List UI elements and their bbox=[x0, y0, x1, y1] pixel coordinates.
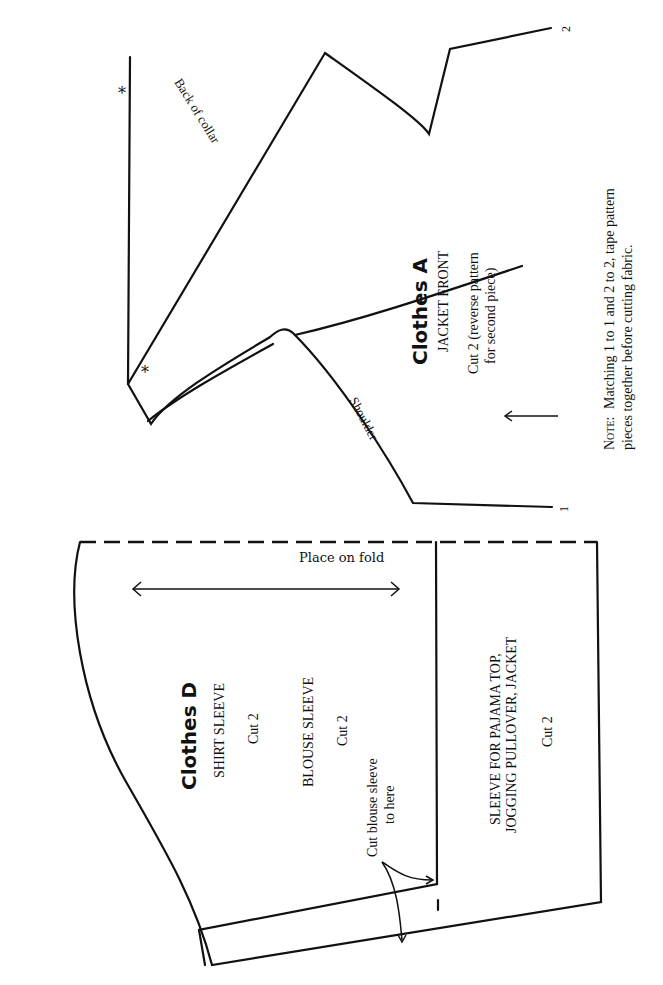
collar-inner-line bbox=[148, 344, 273, 421]
note-label: Note: bbox=[602, 417, 617, 450]
blouse-sleeve-line bbox=[199, 542, 437, 965]
cut-blouse-label-line2: to here bbox=[382, 786, 397, 824]
shirt-sleeve-cut: Cut 2 bbox=[246, 713, 261, 744]
shoulder-label: Shoulder bbox=[346, 394, 382, 443]
shirt-sleeve-label: SHIRT SLEEVE bbox=[212, 683, 227, 778]
sleeve-for-label-line1: SLEEVE FOR PAJAMA TOP, bbox=[488, 653, 503, 825]
collar-top-edge bbox=[128, 57, 130, 384]
jacket-front-label: JACKET FRONT bbox=[436, 250, 451, 352]
back-of-collar-label: Back of collar bbox=[171, 76, 223, 147]
jacket-cut-line1: Cut 2 (reverse pattern bbox=[466, 252, 482, 374]
sleeve-piece: Place on fold Clothes D SHIRT SLEEVE Cut… bbox=[74, 542, 601, 965]
match-mark-2: 2 bbox=[559, 26, 573, 32]
svg-text:Note: Matching 1 to 1 an: Note: Matching 1 to 1 and 2 to 2, tape p… bbox=[602, 188, 617, 450]
sleeve-outline bbox=[74, 542, 601, 965]
note-line2: pieces together before cutting fabric. bbox=[620, 244, 635, 450]
cut-blouse-label-line1: Cut blouse sleeve bbox=[365, 758, 380, 857]
callout-arrow-2 bbox=[382, 862, 402, 940]
clothes-a-title: Clothes A bbox=[408, 257, 432, 365]
sleeve-for-cut: Cut 2 bbox=[540, 716, 555, 747]
collar-asterisk-bottom: * bbox=[141, 363, 149, 382]
pattern-page: Clothes A JACKET FRONT Cut 2 (reverse pa… bbox=[0, 0, 663, 985]
blouse-sleeve-cut: Cut 2 bbox=[335, 715, 350, 746]
grainline-arrow bbox=[505, 411, 558, 421]
clothes-d-title: Clothes D bbox=[177, 682, 201, 790]
note-line1: Matching 1 to 1 and 2 to 2, tape pattern bbox=[602, 188, 617, 409]
collar-asterisk-top: * bbox=[118, 84, 126, 103]
jacket-cut-line2: for second piece) bbox=[483, 267, 499, 364]
place-on-fold-label: Place on fold bbox=[299, 550, 384, 565]
place-on-fold-arrow bbox=[133, 582, 399, 596]
sleeve-for-label-line2: JOGGING PULLOVER, JACKET bbox=[504, 636, 519, 833]
blouse-sleeve-label: BLOUSE SLEEVE bbox=[301, 677, 316, 787]
match-mark-1: 1 bbox=[557, 506, 571, 512]
jacket-front-piece: Clothes A JACKET FRONT Cut 2 (reverse pa… bbox=[118, 26, 573, 512]
assembly-note: Note: Matching 1 to 1 and 2 to 2, tape p… bbox=[602, 188, 635, 450]
